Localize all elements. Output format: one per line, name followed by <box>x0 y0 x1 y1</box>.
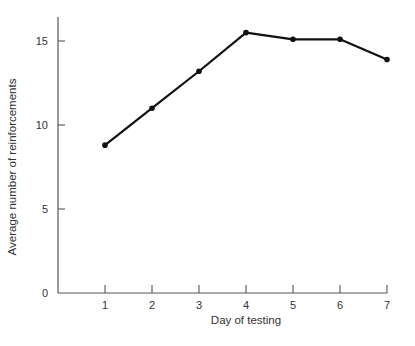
data-point <box>384 57 390 63</box>
y-tick-label: 5 <box>42 203 48 215</box>
data-point <box>337 37 343 43</box>
y-axis-label: Average number of reinforcements <box>6 78 18 255</box>
axes <box>58 17 387 293</box>
data-point <box>102 142 108 148</box>
data-point <box>243 30 249 36</box>
x-tick-label: 2 <box>149 299 155 311</box>
x-tick-label: 6 <box>337 299 343 311</box>
x-tick-label: 1 <box>102 299 108 311</box>
line-chart: 0510151234567 Day of testing Average num… <box>0 0 415 346</box>
x-tick-label: 4 <box>243 299 249 311</box>
data-line <box>105 33 387 146</box>
data-point <box>290 37 296 43</box>
y-tick-label: 10 <box>36 119 48 131</box>
x-tick-label: 7 <box>384 299 390 311</box>
y-tick-label: 15 <box>36 35 48 47</box>
y-tick-label: 0 <box>42 287 48 299</box>
x-axis-label: Day of testing <box>211 314 281 326</box>
data-point <box>196 68 202 74</box>
x-tick-label: 5 <box>290 299 296 311</box>
data-points <box>102 30 390 148</box>
ticks: 0510151234567 <box>36 35 390 311</box>
data-point <box>149 105 155 111</box>
x-tick-label: 3 <box>196 299 202 311</box>
